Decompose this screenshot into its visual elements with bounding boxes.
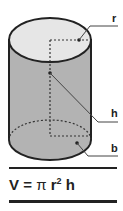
height-label: h [111,107,118,119]
formula-pi: π [36,176,46,193]
formula-exponent: 2 [57,176,62,186]
formula-eq: = [23,176,32,193]
formula-h: h [66,176,75,193]
radius-label: r [112,12,116,24]
formula-v: V [9,176,19,193]
top-divider [9,167,117,169]
base-label: b [111,142,118,154]
volume-formula: V = π r2 h [9,176,75,193]
bottom-divider [9,200,117,203]
